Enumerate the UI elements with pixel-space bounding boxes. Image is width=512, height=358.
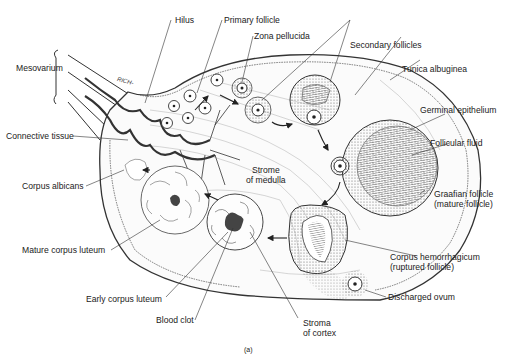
label-primary-follicle: Primary follicle	[224, 15, 280, 25]
label-early-corpus-luteum: Early corpus luteum	[86, 294, 162, 304]
label-secondary-follicles: Secondary follicles	[350, 40, 422, 50]
label-mature-corpus-luteum: Mature corpus luteum	[22, 245, 105, 255]
label-hilus: Hilus	[175, 15, 194, 25]
label-mesovarium: Mesovarium	[16, 63, 63, 73]
label-stroma-cortex: Stroma of cortex	[303, 318, 336, 338]
label-stroma-medulla: Strome of medulla	[246, 165, 286, 185]
label-germinal-epithelium: Germinal epithelium	[420, 105, 496, 115]
label-blood-clot: Blood clot	[156, 315, 194, 325]
ovary-diagram: Hilus Primary follicle Zona pellucida Se…	[0, 0, 512, 358]
label-follicular-fluid: Follicular fluid	[430, 138, 483, 148]
label-corpus-hemorrhagicum: Corpus hemorrhagicum (ruptured follicle)	[390, 252, 480, 272]
label-corpus-albicans: Corpus albicans	[22, 181, 84, 191]
label-tunica-albuginea: Tunica albuginea	[402, 64, 467, 74]
label-discharged-ovum: Discharged ovum	[388, 292, 455, 302]
label-graafian-follicle: Graafian follicle (mature follicle)	[434, 189, 493, 209]
label-connective-tissue: Connective tissue	[6, 131, 74, 141]
label-zona-pellucida: Zona pellucida	[254, 31, 310, 41]
panel-label: (a)	[244, 345, 253, 355]
